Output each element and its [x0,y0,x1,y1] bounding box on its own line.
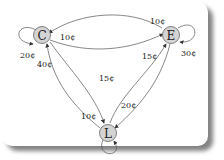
svg-text:E: E [167,29,176,43]
label-e-e: 30¢ [181,49,196,58]
node-c: C [34,27,51,44]
edge-c-l [50,42,104,123]
label-l-e: 15¢ [142,52,157,61]
edge-l-e [110,44,166,123]
label-e-l: 20¢ [121,101,136,110]
state-diagram: C E L 20¢ 10¢ 10¢ 30¢ 40¢ 15¢ 15¢ 20¢ 10… [0,0,224,160]
label-c-l: 15¢ [99,74,114,83]
label-l-c: 40¢ [37,60,52,69]
edge-l-l [102,140,117,154]
node-e: E [163,27,180,44]
edge-e-c [49,15,162,33]
label-l-l: 10¢ [81,112,96,121]
edge-e-e [178,25,195,42]
svg-text:C: C [37,29,46,43]
label-c-c: 20¢ [20,51,35,60]
label-e-c: 10¢ [150,17,165,26]
node-l: L [100,125,117,142]
svg-text:L: L [104,127,112,141]
label-c-e: 10¢ [60,33,75,42]
